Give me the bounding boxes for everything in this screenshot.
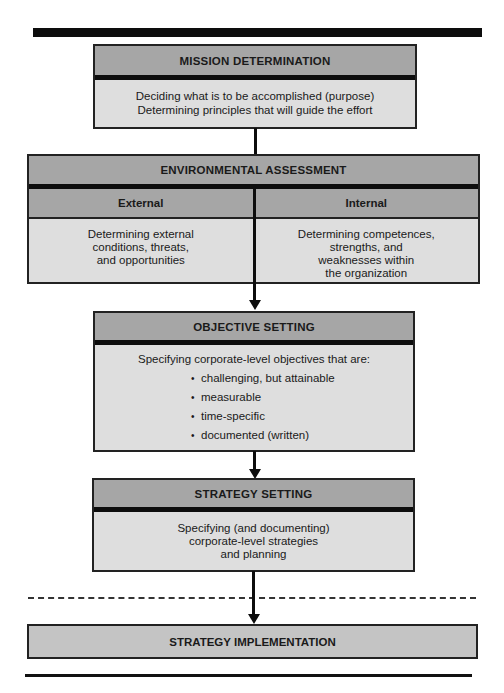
internal-line: the organization (255, 267, 479, 280)
strategy-description: Specifying (and documenting) corporate-l… (94, 512, 413, 561)
internal-column: Internal Determining competences, streng… (253, 189, 479, 282)
bullet-icon: • (191, 369, 201, 388)
strategy-line: and planning (94, 548, 413, 561)
external-label: External (29, 189, 253, 219)
strategy-title: STRATEGY SETTING (94, 480, 413, 512)
list-item-text: documented (written) (201, 429, 309, 441)
external-line: conditions, threats, (29, 241, 253, 254)
bullet-icon: • (191, 388, 201, 407)
external-line: Determining external (29, 228, 253, 241)
list-item: •measurable (191, 388, 413, 407)
strategy-line: Specifying (and documenting) (94, 522, 413, 535)
internal-line: strengths, and (255, 241, 479, 254)
arrowhead-down-icon (248, 614, 260, 624)
implementation-title: STRATEGY IMPLEMENTATION (169, 636, 336, 648)
objective-intro: Specifying corporate-level objectives th… (95, 352, 413, 366)
mission-title: MISSION DETERMINATION (95, 46, 415, 80)
bottom-rule (25, 674, 472, 677)
list-item: •documented (written) (191, 426, 413, 445)
mission-line: Determining principles that will guide t… (95, 103, 415, 117)
external-line: and opportunities (29, 254, 253, 267)
bullet-icon: • (191, 426, 201, 445)
connector-mission-env (254, 128, 257, 155)
external-column: External Determining external conditions… (29, 189, 253, 282)
list-item-text: measurable (201, 391, 261, 403)
objective-title: OBJECTIVE SETTING (95, 313, 413, 345)
internal-line: weaknesses within (255, 254, 479, 267)
objective-description: Specifying corporate-level objectives th… (95, 345, 413, 445)
mission-line: Deciding what is to be accomplished (pur… (95, 89, 415, 103)
strategy-line: corporate-level strategies (94, 535, 413, 548)
internal-line: Determining competences, (255, 228, 479, 241)
list-item: •time-specific (191, 407, 413, 426)
connector-objective-strategy (253, 451, 256, 471)
mission-description: Deciding what is to be accomplished (pur… (95, 80, 415, 117)
objective-criteria-list: •challenging, but attainable •measurable… (191, 369, 413, 445)
internal-description: Determining competences, strengths, and … (255, 219, 479, 282)
list-item-text: time-specific (201, 410, 265, 422)
list-item: •challenging, but attainable (191, 369, 413, 388)
strategy-implementation-box: STRATEGY IMPLEMENTATION (27, 624, 478, 659)
arrowhead-down-icon (249, 300, 261, 310)
connector-env-objective (253, 184, 256, 302)
strategy-setting-box: STRATEGY SETTING Specifying (and documen… (92, 478, 415, 572)
connector-strategy-implementation (252, 571, 255, 615)
mission-determination-box: MISSION DETERMINATION Deciding what is t… (93, 44, 417, 129)
bullet-icon: • (191, 407, 201, 426)
top-rule (33, 28, 482, 37)
list-item-text: challenging, but attainable (201, 372, 335, 384)
external-description: Determining external conditions, threats… (29, 219, 253, 282)
objective-setting-box: OBJECTIVE SETTING Specifying corporate-l… (93, 311, 415, 452)
internal-label: Internal (255, 189, 479, 219)
